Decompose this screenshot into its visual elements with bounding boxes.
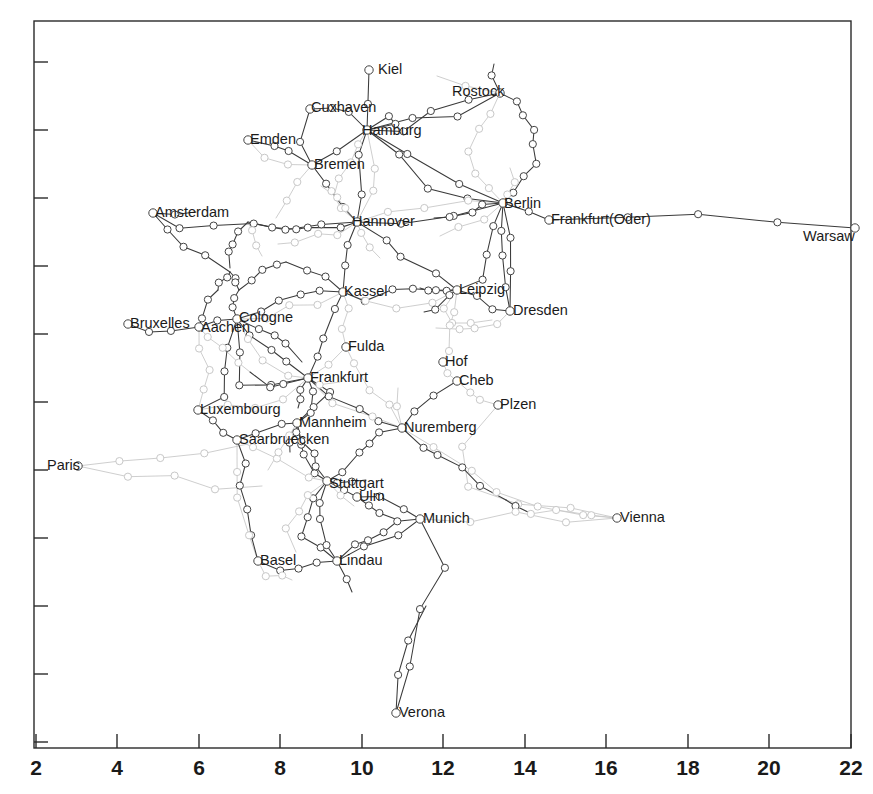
network-node (211, 486, 218, 493)
city-label-amsterdam: Amsterdam (155, 204, 229, 220)
network-node (534, 503, 541, 510)
network-node (366, 244, 373, 251)
network-node (268, 346, 275, 353)
city-label-warsaw: Warsaw (803, 228, 855, 244)
network-node (409, 114, 416, 121)
network-node (471, 325, 478, 332)
network-node (291, 239, 298, 246)
network-node (580, 511, 587, 518)
network-node (209, 417, 216, 424)
x-tick-label-14: 14 (513, 756, 537, 779)
network-node (434, 451, 441, 458)
network-node (498, 227, 505, 234)
network-node (221, 368, 228, 375)
network-node (342, 262, 349, 269)
network-node (386, 401, 393, 408)
x-tick-label-16: 16 (594, 756, 617, 779)
network-node (235, 228, 242, 235)
network-node (489, 306, 496, 313)
network-node (425, 287, 432, 294)
network-node (409, 285, 416, 292)
network-node (494, 321, 501, 328)
network-node (297, 291, 304, 298)
network-node (337, 224, 344, 231)
network-node (358, 191, 365, 198)
network-node (405, 637, 412, 644)
network-node (397, 253, 404, 260)
network-node (278, 420, 285, 427)
network-node (261, 154, 268, 161)
network-edge (367, 130, 503, 203)
network-node (325, 393, 332, 400)
network-node (221, 393, 228, 400)
network-node (297, 138, 304, 145)
city-label-paris: Paris (47, 457, 80, 473)
network-node (499, 252, 506, 259)
network-node (454, 113, 461, 120)
network-node (328, 188, 335, 195)
city-label-luxembourg: Luxembourg (200, 401, 281, 417)
city-label-kassel: Kassel (344, 283, 388, 299)
network-node (236, 382, 243, 389)
city-label-dresden: Dresden (513, 302, 568, 318)
network-node (472, 170, 479, 177)
x-tick-label-18: 18 (676, 756, 700, 779)
network-node (393, 403, 400, 410)
plot-frame (34, 21, 851, 748)
network-edge (343, 222, 357, 292)
network-node (337, 492, 344, 499)
network-node (567, 504, 574, 511)
network-node (273, 261, 280, 268)
network-node (259, 266, 266, 273)
network-node (395, 532, 402, 539)
network-node (488, 72, 495, 79)
network-node (282, 226, 289, 233)
network-node (406, 663, 413, 670)
network-node (275, 449, 282, 456)
network-node (283, 358, 290, 365)
network-node (366, 440, 373, 447)
network-node (298, 533, 305, 540)
network-node (519, 112, 526, 119)
network-edge (276, 165, 312, 218)
network-node (253, 242, 260, 249)
network-node (427, 107, 434, 114)
network-node (202, 252, 209, 259)
network-node (476, 482, 483, 489)
network-node (487, 110, 494, 117)
network-node (483, 251, 490, 258)
network-node (455, 223, 462, 230)
network-node (430, 444, 437, 451)
network-node (335, 175, 342, 182)
network-node (249, 227, 256, 234)
network-node (176, 225, 183, 232)
network-node (246, 532, 253, 539)
network-node (345, 305, 352, 312)
network-node (432, 287, 439, 294)
network-node (215, 279, 222, 286)
city-label-emden: Emden (250, 131, 296, 147)
network-edge (300, 109, 312, 165)
city-label-fulda: Fulda (348, 338, 385, 354)
network-node (224, 274, 231, 281)
network-node (313, 559, 320, 566)
network-node (588, 512, 595, 519)
network-node (225, 248, 232, 255)
x-tick-label-4: 4 (111, 756, 123, 779)
network-edge (462, 405, 617, 518)
city-label-mannheim: Mannheim (299, 414, 367, 430)
network-node (369, 413, 376, 420)
network-node (424, 185, 431, 192)
network-node (236, 482, 243, 489)
network-node (383, 237, 390, 244)
network-node (250, 220, 257, 227)
network-node (366, 387, 373, 394)
city-label-cheb: Cheb (459, 372, 494, 388)
network-node (309, 388, 316, 395)
network-node (358, 229, 365, 236)
network-node (325, 361, 332, 368)
network-node (533, 160, 540, 167)
network-node (331, 305, 338, 312)
network-node (344, 241, 351, 248)
network-node (304, 267, 311, 274)
